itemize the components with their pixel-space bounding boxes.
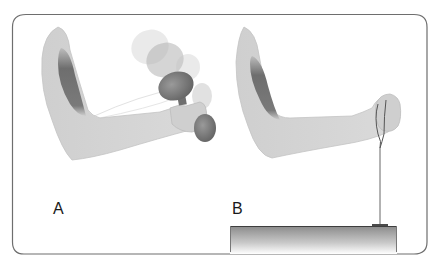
panel-b bbox=[230, 27, 401, 254]
fixed-block bbox=[230, 226, 397, 254]
panel-a bbox=[42, 24, 216, 160]
fist-b bbox=[376, 94, 401, 131]
figure-canvas bbox=[0, 0, 439, 271]
panel-label-b: B bbox=[232, 200, 243, 218]
panel-label-a: A bbox=[53, 200, 64, 218]
